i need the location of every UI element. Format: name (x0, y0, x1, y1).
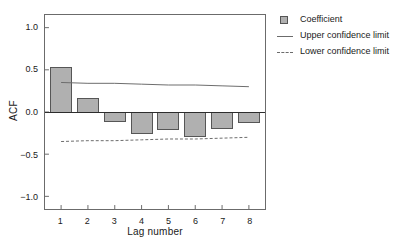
legend-item-upper-confidence-limit: Upper confidence limit (276, 28, 396, 43)
legend-label: Coefficient (300, 14, 342, 25)
x-tick-label: 4 (139, 216, 144, 226)
dashed-line-icon (276, 46, 294, 58)
chart-legend: Coefficient Upper confidence limit Lower… (276, 12, 396, 60)
solid-line-icon (276, 30, 294, 42)
x-tick-label: 1 (58, 216, 63, 226)
legend-label: Upper confidence limit (300, 30, 389, 41)
legend-item-coefficient: Coefficient (276, 12, 396, 27)
acf-correlogram-chart: ACF 1.00.50.0−0.5−1.0 12345678 Lag numbe… (0, 0, 398, 242)
legend-label: Lower confidence limit (300, 46, 389, 57)
x-tick-label: 8 (247, 216, 252, 226)
x-tick-label: 6 (193, 216, 198, 226)
x-axis-title: Lag number (44, 226, 266, 237)
legend-item-lower-confidence-limit: Lower confidence limit (276, 44, 396, 59)
swatch-icon (276, 14, 294, 26)
x-tick-label: 2 (85, 216, 90, 226)
x-tick-label: 7 (220, 216, 225, 226)
x-tick-label: 5 (166, 216, 171, 226)
x-tick-label: 3 (112, 216, 117, 226)
